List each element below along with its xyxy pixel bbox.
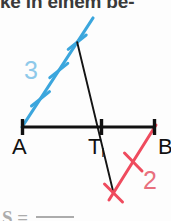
geometry-figure: ke in einem be- A Ti B 3 2 — [0, 0, 171, 221]
point-label-Ti-subscript: i — [101, 145, 103, 160]
caption-bottom-prefix: S — [2, 207, 13, 221]
caption-bottom-equals: = — [17, 207, 28, 221]
blue-tick-2 — [50, 63, 68, 77]
red-measure-label-2: 2 — [143, 168, 157, 193]
red-tick-2 — [105, 184, 123, 202]
point-label-Ti: Ti — [88, 136, 104, 159]
point-label-Ti-main: T — [88, 134, 101, 159]
blue-measure-label-3: 3 — [24, 58, 38, 83]
point-label-B: B — [158, 136, 171, 158]
caption-bottom-text: S = — [2, 207, 171, 221]
fraction-bar — [36, 216, 74, 218]
blue-tick-1 — [32, 92, 50, 106]
point-label-A: A — [12, 136, 27, 158]
baseline-group — [22, 119, 155, 135]
transversal-line — [77, 42, 113, 193]
